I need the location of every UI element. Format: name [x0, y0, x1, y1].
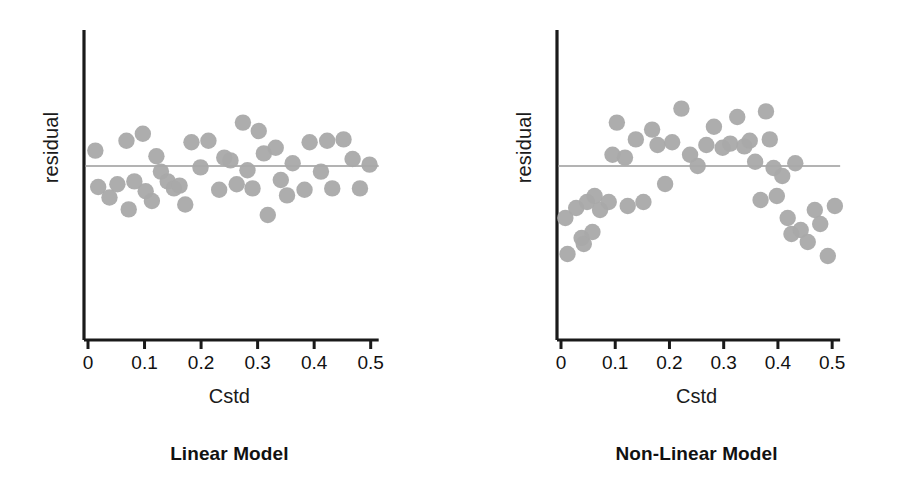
scatter-point: [774, 168, 790, 184]
scatter-point: [800, 234, 816, 250]
scatter-point: [279, 187, 295, 203]
scatter-point-group: [557, 100, 843, 264]
scatter-point: [827, 198, 843, 214]
scatter-point: [229, 176, 245, 192]
scatter-point: [664, 134, 680, 150]
scatter-point: [706, 119, 722, 135]
scatter-point: [689, 158, 705, 174]
scatter-point: [762, 131, 778, 147]
scatter-point: [121, 201, 137, 217]
scatter-point: [601, 194, 617, 210]
scatter-point: [273, 172, 289, 188]
scatter-point: [313, 163, 329, 179]
scatter-point: [361, 156, 377, 172]
scatter-point: [617, 149, 633, 165]
x-tick-label-1: 0.1: [131, 352, 157, 374]
scatter-point: [118, 133, 134, 149]
scatter-point: [820, 248, 836, 264]
scatter-point: [222, 152, 238, 168]
scatter-point: [609, 114, 625, 130]
caption-non-linear-model: Non-Linear Model: [616, 443, 778, 465]
scatter-point: [324, 180, 340, 196]
scatter-point: [244, 180, 260, 196]
scatter-point: [211, 182, 227, 198]
panel-linear-model: residual Cstd Linear Model 00.10.20.30.4…: [0, 0, 448, 497]
scatter-point: [301, 134, 317, 150]
scatter-point: [742, 133, 758, 149]
scatter-point: [807, 202, 823, 218]
scatter-point: [559, 246, 575, 262]
x-axis-label-left: Cstd: [169, 385, 289, 408]
x-tick-label-5: 0.5: [819, 352, 845, 374]
scatter-point: [335, 131, 351, 147]
scatter-point: [268, 140, 284, 156]
x-tick-label-1: 0.1: [602, 352, 628, 374]
scatter-point: [628, 131, 644, 147]
scatter-point: [171, 177, 187, 193]
scatter-point: [319, 133, 335, 149]
scatter-point: [635, 194, 651, 210]
caption-linear-model: Linear Model: [170, 443, 288, 465]
x-tick-label-0: 0: [83, 352, 94, 374]
scatter-point: [787, 155, 803, 171]
scatter-point: [135, 126, 151, 142]
scatter-point: [192, 159, 208, 175]
y-axis-label-left: residual: [40, 93, 63, 203]
scatter-point: [87, 142, 103, 158]
scatter-point: [284, 155, 300, 171]
scatter-point: [352, 180, 368, 196]
scatter-point: [183, 134, 199, 150]
scatter-point: [251, 123, 267, 139]
x-tick-label-3: 0.3: [710, 352, 736, 374]
x-tick-label-5: 0.5: [357, 352, 383, 374]
scatter-point: [148, 148, 164, 164]
y-axis-label-right: residual: [513, 93, 536, 203]
scatter-point: [747, 154, 763, 170]
scatter-point: [239, 162, 255, 178]
panel-non-linear-model: residual Cstd Non-Linear Model 00.10.20.…: [473, 0, 897, 497]
scatter-point: [698, 137, 714, 153]
x-tick-label-4: 0.4: [301, 352, 327, 374]
scatter-point: [769, 188, 785, 204]
scatter-point: [586, 188, 602, 204]
x-tick-label-0: 0: [556, 352, 567, 374]
scatter-point-group: [87, 114, 378, 223]
scatter-point: [758, 103, 774, 119]
scatter-point: [177, 196, 193, 212]
scatter-point: [644, 121, 660, 137]
x-axis-label-right: Cstd: [637, 385, 757, 408]
scatter-point: [344, 151, 360, 167]
x-tick-label-3: 0.3: [244, 352, 270, 374]
scatter-point: [235, 114, 251, 130]
x-tick-label-2: 0.2: [656, 352, 682, 374]
scatter-point: [649, 137, 665, 153]
scatter-point: [752, 192, 768, 208]
scatter-point: [109, 176, 125, 192]
x-tick-label-4: 0.4: [765, 352, 791, 374]
scatter-point: [779, 210, 795, 226]
scatter-point: [729, 109, 745, 125]
scatter-point: [722, 135, 738, 151]
scatter-point: [673, 100, 689, 116]
scatter-point: [200, 133, 216, 149]
scatter-point: [657, 176, 673, 192]
x-tick-label-2: 0.2: [188, 352, 214, 374]
scatter-point: [144, 193, 160, 209]
residual-plots-figure: residual Cstd Linear Model 00.10.20.30.4…: [0, 0, 897, 497]
scatter-point: [260, 207, 276, 223]
scatter-point: [584, 224, 600, 240]
scatter-point: [296, 182, 312, 198]
scatter-point: [812, 216, 828, 232]
scatter-point: [620, 198, 636, 214]
